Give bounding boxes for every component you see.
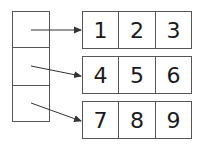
cell: 5 — [130, 63, 144, 88]
cell: 8 — [130, 108, 144, 133]
cell: 1 — [94, 18, 108, 43]
row-1: 1 2 3 — [83, 12, 192, 49]
cell: 6 — [167, 63, 181, 88]
arrow-icon — [31, 103, 81, 121]
cell: 4 — [94, 63, 108, 88]
cell: 3 — [167, 18, 181, 43]
cell: 9 — [167, 108, 181, 133]
cell: 7 — [94, 108, 108, 133]
row-2: 4 5 6 — [83, 57, 192, 94]
cell: 2 — [130, 18, 144, 43]
pointer-arrows — [31, 30, 81, 121]
row-3: 7 8 9 — [83, 102, 192, 139]
pointer-array-diagram: 1 2 3 4 5 6 7 8 9 — [0, 0, 200, 149]
arrow-icon — [31, 66, 81, 76]
